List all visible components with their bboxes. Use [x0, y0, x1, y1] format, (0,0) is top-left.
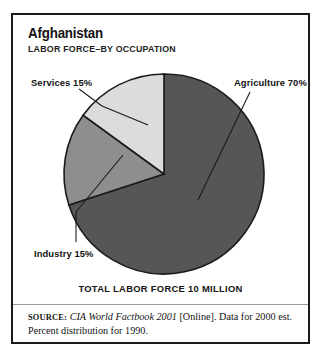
source-divider	[13, 304, 308, 305]
pie-chart-area: Agriculture 70% Services 15% Industry 15…	[11, 13, 310, 302]
figure-card: Afghanistan LABOR FORCE–BY OCCUPATION Ag…	[11, 13, 310, 344]
source-note: Source: CIA World Factbook 2001 [Online]…	[28, 310, 294, 337]
source-label: Source:	[28, 313, 67, 322]
source-publication: CIA World Factbook 2001	[70, 311, 177, 322]
total-labor-force-caption: TOTAL LABOR FORCE 10 MILLION	[13, 283, 308, 294]
pie-label-services: Services 15%	[31, 77, 93, 88]
pie-label-agriculture: Agriculture 70%	[234, 77, 307, 88]
pie-label-industry: Industry 15%	[34, 248, 94, 259]
pie-chart: Agriculture 70% Services 15% Industry 15…	[11, 13, 310, 302]
